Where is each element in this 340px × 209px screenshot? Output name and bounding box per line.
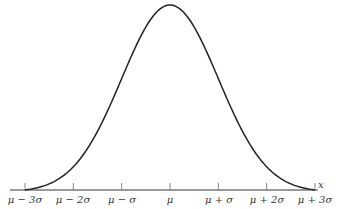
normal-distribution-chart: x μ − 3σ μ − 2σ μ − σ μ μ + σ μ + 2σ μ +… (0, 0, 340, 209)
tick-label-mu-plus-3sigma: μ + 3σ (298, 194, 332, 205)
tick-label-mu-minus-2sigma: μ − 2σ (56, 194, 90, 205)
bell-curve-plot (0, 0, 340, 209)
tick-label-mu-minus-sigma: μ − σ (108, 194, 136, 205)
tick-label-mu-plus-2sigma: μ + 2σ (250, 194, 284, 205)
tick-label-mu-minus-3sigma: μ − 3σ (8, 194, 42, 205)
tick-label-mu-plus-sigma: μ + σ (205, 194, 233, 205)
x-axis-label: x (318, 179, 324, 190)
tick-label-mu: μ (167, 194, 174, 205)
bell-curve (25, 5, 315, 190)
